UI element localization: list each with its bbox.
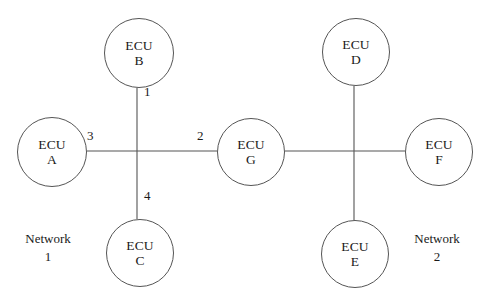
network-topology-diagram: ECU A ECU B ECU C ECU G ECU D ECU E ECU … [0, 0, 482, 295]
ecu-node-b[interactable]: ECU B [104, 18, 174, 88]
ecu-node-g-id: G [246, 152, 256, 167]
network-label-1: Network 1 [8, 230, 88, 265]
network-label-2: Network 2 [397, 230, 477, 265]
ecu-node-a-id: A [47, 152, 57, 167]
ecu-node-e[interactable]: ECU E [321, 220, 389, 288]
ecu-node-c-id: C [135, 253, 144, 268]
ecu-node-d[interactable]: ECU D [322, 18, 390, 86]
network-label-2-number: 2 [397, 248, 477, 266]
ecu-node-b-id: B [134, 53, 143, 68]
ecu-node-g[interactable]: ECU G [217, 118, 285, 186]
ecu-node-e-id: E [351, 254, 359, 269]
ecu-node-e-kind: ECU [341, 239, 369, 254]
ecu-node-a-kind: ECU [38, 137, 66, 152]
network-label-1-number: 1 [8, 248, 88, 266]
ecu-node-c[interactable]: ECU C [106, 219, 174, 287]
network-label-1-name: Network [8, 230, 88, 248]
ecu-node-f-kind: ECU [425, 137, 453, 152]
edge-label-4: 4 [144, 188, 151, 204]
ecu-node-f-id: F [435, 152, 443, 167]
ecu-node-d-id: D [351, 52, 361, 67]
ecu-node-g-kind: ECU [237, 137, 265, 152]
edge-label-2: 2 [197, 128, 204, 144]
ecu-node-d-kind: ECU [342, 37, 370, 52]
ecu-node-f[interactable]: ECU F [405, 118, 473, 186]
network-label-2-name: Network [397, 230, 477, 248]
edge-label-3: 3 [87, 128, 94, 144]
ecu-node-a[interactable]: ECU A [17, 117, 87, 187]
ecu-node-c-kind: ECU [126, 238, 154, 253]
edge-label-1: 1 [144, 84, 151, 100]
ecu-node-b-kind: ECU [125, 38, 153, 53]
